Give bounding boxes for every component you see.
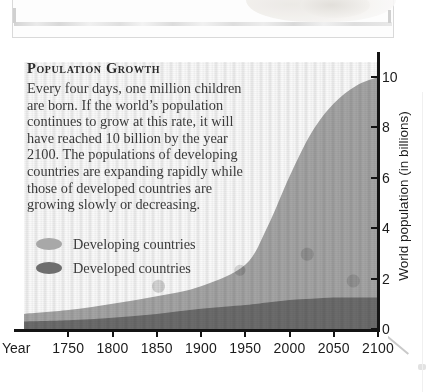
y-tick-label-10: 10	[382, 69, 398, 85]
y-tick-8	[371, 126, 379, 128]
y-axis-line	[377, 52, 380, 332]
y-tick-2	[371, 278, 379, 280]
y-tick-0	[371, 328, 379, 330]
x-tick-2000	[289, 329, 291, 337]
scan-artifact-line	[388, 332, 414, 358]
y-tick-label-4: 4	[382, 220, 390, 236]
x-tick-label-1900: 1900	[185, 340, 217, 356]
x-tick-label-2000: 2000	[274, 340, 306, 356]
legend-item-developed: Developed countries	[36, 256, 196, 280]
y-tick-label-2: 2	[382, 271, 390, 287]
upper-figure-baseline	[14, 22, 392, 26]
y-tick-label-8: 8	[382, 119, 390, 135]
page-edge-shadow	[422, 92, 423, 392]
y-tick-6	[371, 177, 379, 179]
x-tick-1900	[200, 329, 202, 337]
x-tick-1950	[244, 329, 246, 337]
population-growth-chart: 17501800185019001950200020502100 0246810…	[0, 46, 432, 357]
upper-figure-right-tick	[388, 10, 391, 23]
legend-swatch-developing-icon	[36, 238, 62, 250]
chart-title: Population Growth	[27, 60, 259, 77]
x-tick-label-1950: 1950	[229, 340, 261, 356]
legend-label-developed: Developed countries	[73, 260, 191, 277]
upper-figure-left-tick	[13, 8, 16, 23]
x-tick-1800	[112, 329, 114, 337]
x-tick-1850	[156, 329, 158, 337]
x-tick-label-2050: 2050	[318, 340, 350, 356]
y-tick-10	[371, 76, 379, 78]
x-tick-2050	[333, 329, 335, 337]
x-tick-label-1750: 1750	[52, 340, 84, 356]
x-tick-label-1850: 1850	[141, 340, 173, 356]
legend-item-developing: Developing countries	[36, 232, 196, 256]
legend-label-developing: Developing countries	[73, 236, 196, 253]
y-axis-title: World population (in billions)	[396, 106, 411, 286]
x-tick-1750	[67, 329, 69, 337]
chart-description: Every four days, one million children ar…	[27, 80, 259, 213]
legend-swatch-developed-icon	[36, 262, 62, 274]
upper-figure-remnant	[0, 0, 432, 46]
y-tick-4	[371, 227, 379, 229]
y-tick-label-6: 6	[382, 170, 390, 186]
chart-legend: Developing countries Developed countries	[36, 232, 196, 280]
description-block: Population Growth Every four days, one m…	[27, 60, 259, 213]
x-tick-2100	[377, 329, 379, 337]
x-tick-label-1800: 1800	[97, 340, 129, 356]
x-axis-caption: Year	[2, 340, 30, 356]
